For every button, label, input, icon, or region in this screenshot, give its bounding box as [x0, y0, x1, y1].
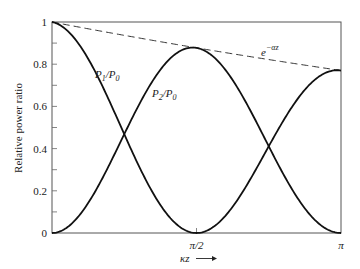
y-tick-label: 0.2 [33, 185, 47, 197]
arrow-right-icon [212, 256, 217, 261]
label-p1-p0: P1/P0 [94, 68, 120, 83]
y-tick-label: 0.4 [33, 143, 47, 155]
series-exp-decay [52, 22, 341, 71]
svg-text:e−αz: e−αz [261, 43, 279, 58]
y-axis-ticks: 00.20.40.60.81 [33, 16, 57, 239]
y-tick-label: 0.6 [33, 100, 47, 112]
series-p1-p0 [52, 22, 341, 233]
label-p2-p0: P2/P0 [151, 87, 177, 102]
x-tick-label: π/2 [189, 239, 204, 251]
y-tick-label: 0 [42, 227, 48, 239]
y-axis-title: Relative power ratio [12, 83, 24, 173]
svg-text:P1/P0: P1/P0 [94, 68, 120, 83]
svg-text:P2/P0: P2/P0 [151, 87, 177, 102]
y-tick-label: 1 [42, 16, 48, 28]
svg-text:κz: κz [180, 252, 190, 264]
x-axis-ticks: π/2π [189, 228, 344, 251]
x-tick-label: π [338, 239, 344, 251]
x-axis-title: κz [180, 252, 217, 264]
label-exp-decay: e−αz [261, 43, 279, 58]
y-tick-label: 0.8 [33, 58, 47, 70]
plot-border [52, 22, 341, 233]
plot-curves [52, 22, 341, 233]
chart: 00.20.40.60.81 π/2π Relative power ratio… [0, 0, 360, 269]
plot-frame [52, 22, 341, 233]
